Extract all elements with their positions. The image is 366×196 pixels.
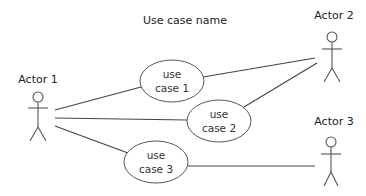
stick-figure-icon [321, 137, 341, 186]
use-case-label-line1: use [163, 68, 182, 80]
actor-label: Actor 3 [314, 115, 353, 128]
actor-2[interactable]: Actor 2 [314, 9, 353, 82]
use-case-2[interactable]: use case 2 [187, 100, 251, 142]
use-case-diagram: Use case name use case 1 use case 2 use … [0, 0, 366, 196]
use-case-label-line2: case 2 [202, 122, 236, 134]
use-case-1[interactable]: use case 1 [140, 60, 204, 102]
use-case-label-line2: case 1 [155, 82, 189, 94]
actor-label: Actor 2 [314, 9, 353, 22]
association-actor1-uc3 [55, 126, 128, 153]
actor-label: Actor 1 [18, 73, 57, 86]
use-case-ellipse [124, 141, 188, 183]
association-uc2-actor2 [244, 63, 317, 107]
use-case-label-line1: use [210, 108, 229, 120]
use-case-ellipse [187, 100, 251, 142]
association-actor1-uc2 [55, 118, 187, 120]
use-case-3[interactable]: use case 3 [124, 141, 188, 183]
stick-figure-icon [322, 32, 342, 82]
use-case-label-line2: case 3 [139, 163, 173, 175]
diagram-title: Use case name [143, 14, 227, 27]
association-actor1-uc1 [55, 87, 141, 110]
actor-3[interactable]: Actor 3 [314, 115, 353, 186]
use-case-label-line1: use [147, 149, 166, 161]
actor-1[interactable]: Actor 1 [18, 73, 57, 141]
use-case-ellipse [140, 60, 204, 102]
stick-figure-icon [28, 92, 48, 141]
